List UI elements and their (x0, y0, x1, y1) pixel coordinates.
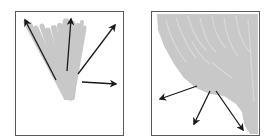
dense-stroke-mass (157, 14, 258, 134)
arrow-down-left-icon (160, 86, 197, 99)
arrow-down-icon (194, 91, 210, 124)
left-panel: Fan-shaped stroke bundle with outward ar… (15, 11, 124, 136)
right-panel-drawing (152, 12, 260, 136)
arrow-right-icon (82, 82, 116, 84)
right-panel: Dense stroke mass with downward arrows (151, 11, 260, 136)
left-panel-drawing (16, 12, 124, 136)
